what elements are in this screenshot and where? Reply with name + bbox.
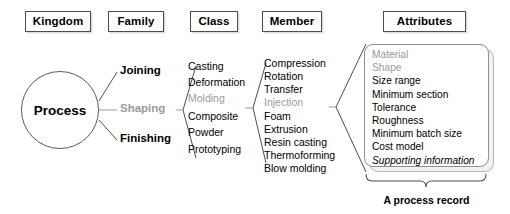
class-item-molding: Molding bbox=[188, 92, 225, 104]
family-item-shaping: Shaping bbox=[120, 102, 165, 114]
edge-injection-attributes-bottom bbox=[336, 107, 366, 172]
attribute-item-tolerance: Tolerance bbox=[372, 101, 490, 114]
class-item-powder: Powder bbox=[188, 126, 224, 138]
member-item-compression: Compression bbox=[264, 57, 326, 69]
attribute-item-minimum-section: Minimum section bbox=[372, 88, 490, 101]
member-item-rotation: Rotation bbox=[264, 70, 303, 82]
header-class: Class bbox=[190, 11, 238, 32]
attribute-item-roughness: Roughness bbox=[372, 114, 490, 127]
class-item-prototyping: Prototyping bbox=[188, 143, 241, 155]
class-item-casting: Casting bbox=[188, 60, 224, 72]
attribute-item-shape: Shape bbox=[372, 61, 490, 74]
attribute-item-cost-model: Cost model bbox=[372, 140, 490, 153]
header-attributes: Attributes bbox=[383, 11, 466, 32]
member-item-blow-molding: Blow molding bbox=[264, 162, 326, 174]
attribute-item-size-range: Size range bbox=[372, 74, 490, 87]
member-item-resin-casting: Resin casting bbox=[264, 136, 327, 148]
edge-process-finishing bbox=[99, 120, 117, 140]
record-brace bbox=[366, 174, 486, 187]
process-record-caption: A process record bbox=[364, 194, 489, 206]
edge-injection-attributes-top bbox=[336, 44, 366, 107]
header-family: Family bbox=[108, 11, 164, 32]
attribute-item-supporting-information: Supporting information bbox=[372, 154, 490, 167]
process-label: Process bbox=[21, 71, 99, 149]
member-item-transfer: Transfer bbox=[264, 83, 303, 95]
header-member: Member bbox=[262, 11, 322, 32]
edge-process-joining bbox=[99, 72, 117, 101]
process-taxonomy-diagram: Kingdom Family Class Member Attributes P… bbox=[0, 0, 510, 214]
member-item-foam: Foam bbox=[264, 110, 291, 122]
class-item-composite: Composite bbox=[188, 110, 238, 122]
attributes-list: Material Shape Size range Minimum sectio… bbox=[372, 48, 490, 167]
attribute-item-material: Material bbox=[372, 48, 490, 61]
family-item-joining: Joining bbox=[120, 64, 161, 76]
family-item-finishing: Finishing bbox=[120, 132, 171, 144]
member-item-thermoforming: Thermoforming bbox=[264, 149, 335, 161]
class-item-deformation: Deformation bbox=[188, 76, 245, 88]
header-kingdom: Kingdom bbox=[25, 11, 91, 32]
attribute-item-minimum-batch-size: Minimum batch size bbox=[372, 127, 490, 140]
member-item-injection: Injection bbox=[264, 96, 303, 108]
member-item-extrusion: Extrusion bbox=[264, 123, 308, 135]
